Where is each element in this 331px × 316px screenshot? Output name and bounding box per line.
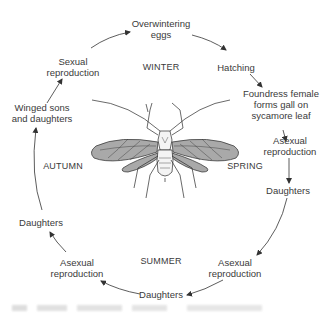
season-spring: SPRING (227, 161, 263, 171)
stage-asexual-spring: Asexual reproduction (264, 135, 317, 157)
stage-line: forms gall on (243, 99, 319, 110)
stage-line: Sexual (47, 56, 100, 67)
season-autumn: AUTUMN (43, 161, 83, 171)
body (157, 131, 173, 176)
stage-line: Asexual (51, 257, 104, 268)
caption-cutoff (12, 305, 262, 311)
stage-line: reproduction (51, 268, 104, 279)
season-summer: SUMMER (140, 256, 181, 266)
stage-line: sycamore leaf (243, 110, 319, 121)
season-winter: WINTER (143, 62, 180, 72)
stage-daughters-summer: Daughters (139, 289, 183, 300)
stage-daughters-autumn: Daughters (19, 217, 63, 228)
stage-line: reproduction (47, 67, 100, 78)
stage-winged-sons-daughters: Winged sons and daughters (12, 102, 73, 124)
stage-line: Asexual (264, 135, 317, 146)
stage-line: Asexual (209, 257, 262, 268)
stage-line: reproduction (264, 146, 317, 157)
stage-hatching: Hatching (217, 62, 255, 73)
stage-line: and daughters (12, 113, 73, 124)
stage-asexual-summer-left: Asexual reproduction (51, 257, 104, 279)
stage-line: Overwintering (132, 18, 191, 29)
stage-line: Foundress female (243, 88, 319, 99)
stage-line: reproduction (209, 268, 262, 279)
stage-line: Daughters (139, 289, 183, 300)
stage-line: Daughters (19, 217, 63, 228)
stage-sexual-reproduction: Sexual reproduction (47, 56, 100, 78)
stage-line: Winged sons (12, 102, 73, 113)
stage-overwintering-eggs: Overwintering eggs (132, 18, 191, 40)
stage-foundress: Foundress female forms gall on sycamore … (243, 88, 319, 121)
stage-line: eggs (132, 29, 191, 40)
stage-line: Daughters (266, 185, 310, 196)
stage-line: Hatching (217, 62, 255, 73)
stage-daughters-spring: Daughters (266, 185, 310, 196)
stage-asexual-summer-right: Asexual reproduction (209, 257, 262, 279)
